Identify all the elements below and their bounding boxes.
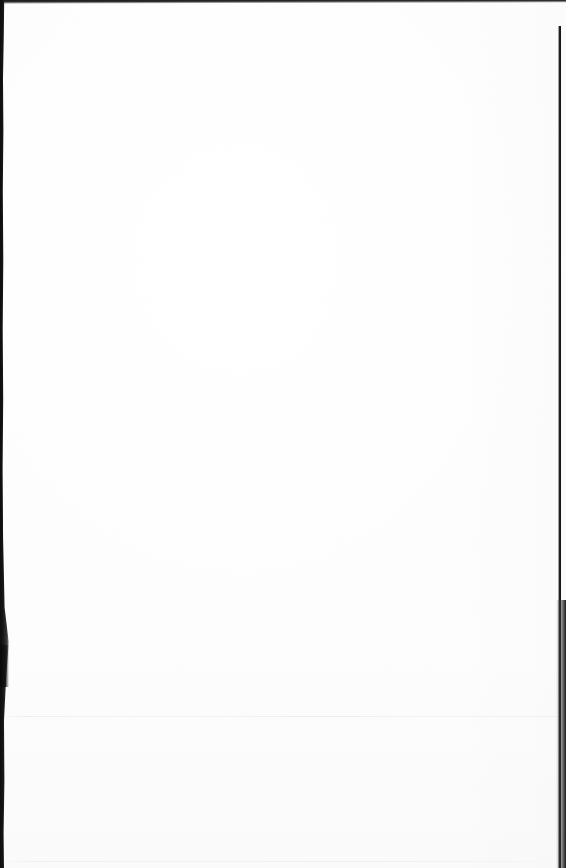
scanned-page (0, 0, 566, 868)
horizontal-rule-bottom (0, 861, 566, 862)
page-content-area (14, 8, 554, 712)
right-scan-edge-lower (556, 600, 566, 868)
left-scan-edge-nub (0, 645, 9, 687)
horizontal-rule-main (0, 716, 566, 717)
